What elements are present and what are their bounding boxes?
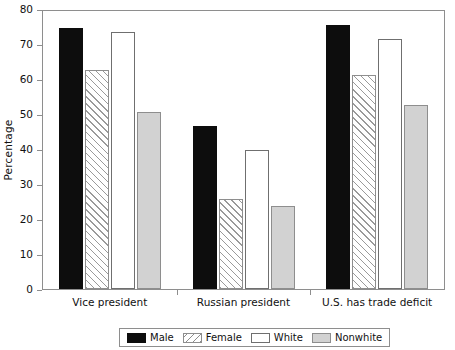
bar-white-group-3 xyxy=(378,39,402,289)
x-axis-tick-mark xyxy=(310,290,311,295)
bar-female-group-3 xyxy=(352,75,376,289)
legend-label: White xyxy=(274,332,303,343)
bar-white-group-2 xyxy=(245,150,269,289)
y-axis-title: Percentage xyxy=(0,0,16,300)
y-axis-tick-mark xyxy=(37,80,42,81)
y-axis-tick-mark xyxy=(37,10,42,11)
bar-male-group-1 xyxy=(59,28,83,289)
y-axis-tick-mark xyxy=(37,150,42,151)
y-axis-tick-label: 80 xyxy=(20,3,33,15)
legend-swatch-white-icon xyxy=(251,333,270,343)
y-axis-tick-label: 50 xyxy=(20,108,33,120)
legend-label: Male xyxy=(150,332,174,343)
y-axis-tick-label: 0 xyxy=(26,283,33,295)
y-axis-tick-label: 10 xyxy=(20,248,33,260)
x-axis-category-label: U.S. has trade deficit xyxy=(297,296,455,308)
y-axis-tick-label: 40 xyxy=(20,143,33,155)
y-axis-tick-mark xyxy=(37,185,42,186)
y-axis-tick-mark xyxy=(37,45,42,46)
legend-item-white[interactable]: White xyxy=(251,332,303,343)
bar-chart-figure: Percentage 01020304050607080 Vice presid… xyxy=(0,0,455,350)
legend-item-nonwhite[interactable]: Nonwhite xyxy=(312,332,382,343)
bar-nonwhite-group-1 xyxy=(137,112,161,289)
y-axis-title-text: Percentage xyxy=(2,119,14,180)
y-axis-tick-mark xyxy=(37,220,42,221)
y-axis-tick-mark xyxy=(37,255,42,256)
legend-label: Female xyxy=(206,332,242,343)
legend-item-male[interactable]: Male xyxy=(127,332,174,343)
y-axis-tick-label: 20 xyxy=(20,213,33,225)
bars-layer xyxy=(43,11,444,289)
bar-nonwhite-group-3 xyxy=(404,105,428,289)
y-axis-tick-label: 30 xyxy=(20,178,33,190)
bar-female-group-1 xyxy=(85,70,109,289)
y-axis-tick-mark xyxy=(37,290,42,291)
bar-male-group-2 xyxy=(193,126,217,289)
bar-white-group-1 xyxy=(111,32,135,289)
bar-female-group-2 xyxy=(219,199,243,289)
y-axis-tick-mark xyxy=(37,115,42,116)
x-axis-tick-mark xyxy=(177,290,178,295)
y-axis-tick-label: 60 xyxy=(20,73,33,85)
bar-male-group-3 xyxy=(326,25,350,289)
legend-label: Nonwhite xyxy=(335,332,382,343)
bar-nonwhite-group-2 xyxy=(271,206,295,289)
legend-item-female[interactable]: Female xyxy=(183,332,242,343)
legend-swatch-male-icon xyxy=(127,333,146,343)
chart-legend: MaleFemaleWhiteNonwhite xyxy=(119,328,390,347)
y-axis-tick-label: 70 xyxy=(20,38,33,50)
legend-swatch-female-icon xyxy=(183,333,202,343)
legend-swatch-nonwhite-icon xyxy=(312,333,331,343)
